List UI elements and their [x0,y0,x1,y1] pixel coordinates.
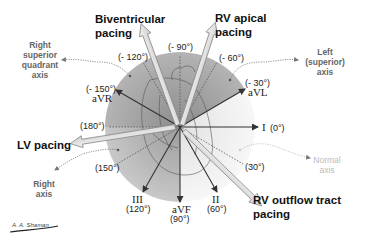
signature: A. A. Shaman [10,222,58,232]
lv-pacing-label: LV pacing [17,139,71,151]
lead-ii-angle: (60°) [207,204,227,214]
right-axis-line2: axis [36,189,53,199]
lead-i-label: I [262,121,266,133]
left-superior-axis-line3: axis [317,67,334,77]
normal-axis-line1: Normal [313,155,341,165]
angle-150: (150°) [95,163,120,173]
left-superior-axis-line2: (superior) [305,57,345,67]
signature-text: A. A. Shaman [11,222,49,228]
angle-minus-120: (- 120°) [118,52,148,62]
angle-180: (180°) [80,121,105,131]
lead-i-angle: (0°) [270,123,285,133]
lead-avl-label: aVL [248,86,268,98]
angle-30: (30°) [245,162,265,172]
right-superior-quadrant-axis-line4: axis [32,70,49,80]
angle-minus-90: (- 90°) [168,42,193,52]
right-superior-quadrant-axis-line2: superior [23,50,58,60]
biventricular-pacing-label: Biventricular [95,13,166,25]
biventricular-pacing-label-2: pacing [95,27,132,39]
rvot-pacing-label: RV outflow tract [253,194,341,206]
right-superior-quadrant-axis-line1: Right [29,40,51,50]
angle-minus-60: (- 60°) [219,53,244,63]
left-superior-axis-line1: Left [317,47,333,57]
rv-apical-pacing-label: RV apical [215,12,267,24]
rv-apical-pacing-label-2: pacing [215,26,252,38]
lead-avr-label: aVR [92,92,113,104]
lead-avf-angle: (90°) [170,214,190,224]
normal-axis-line2: axis [319,165,334,175]
rvot-pacing-label-2: pacing [253,208,290,220]
right-axis-line1: Right [33,179,55,189]
lead-iii-angle: (120°) [126,204,151,214]
right-superior-quadrant-axis-line3: quadrant [22,60,59,70]
hexaxial-pacing-diagram: I (0°) II (60°) aVF (90°) III (120°) (- … [0,0,365,242]
